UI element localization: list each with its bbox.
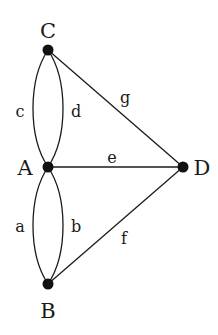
edge-d [48,50,63,167]
edge-a [33,167,48,284]
vertex-a [43,162,54,173]
edge-label-c: c [16,102,25,121]
edge-label-d: d [71,102,81,121]
edge-label-e: e [107,148,116,167]
vertex-label-b: B [40,299,55,323]
vertex-label-a: A [16,156,33,180]
edge-f [48,167,183,284]
vertex-label-c: C [40,19,56,43]
edge-c [33,50,48,167]
vertex-c [43,45,54,56]
edge-b [48,167,63,284]
edge-label-b: b [71,217,81,236]
edge-label-a: a [15,217,25,236]
vertex-d [178,162,189,173]
edge-label-f: f [121,229,128,248]
edge-label-g: g [120,88,130,107]
vertex-label-d: D [194,156,211,180]
graph-diagram: C A D B c d g e a b f [0,0,218,335]
vertex-b [43,279,54,290]
